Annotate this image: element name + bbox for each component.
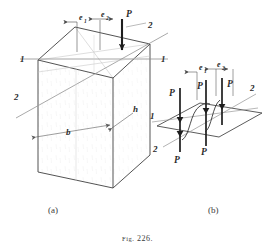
block-front-texture	[38, 60, 113, 188]
panel-b-label-P-bottom-left: P	[174, 155, 180, 165]
panel-b-label-P-top-right: P	[227, 79, 233, 89]
label-axis-1-left: 1	[20, 54, 25, 64]
label-e1: e	[79, 13, 83, 22]
panel-b-caption: (b)	[208, 205, 219, 215]
panel-b-label-e2: e	[217, 60, 221, 69]
panel-b-label-axis-2-upper: 2	[249, 83, 255, 93]
panel-b-label-e1-subscript: 1	[204, 68, 207, 74]
figure-caption-number: 226.	[137, 234, 153, 243]
label-dimension-h: h	[133, 104, 138, 114]
reference-plane	[157, 103, 262, 137]
panel-b-label-e1: e	[199, 63, 203, 72]
label-axis-2-left: 2	[13, 92, 19, 102]
panel-b-label-P-top-mid: P	[197, 81, 203, 91]
panel-b-label-P-top-left: P	[169, 88, 175, 98]
panel-b-label-e2-subscript: 2	[221, 65, 225, 71]
panel-a-caption: (a)	[48, 205, 58, 215]
panel-a-block	[16, 19, 168, 188]
label-e1-subscript: 1	[84, 18, 87, 24]
label-e2-subscript: 2	[105, 15, 109, 21]
figure-drawing-canvas: 1 1 2 2 b h e 1 e 2 P	[0, 0, 275, 249]
leader-to-axis2-label	[126, 23, 146, 27]
figure-caption: Fig. 226.	[0, 234, 275, 243]
figure-caption-prefix: Fig.	[122, 235, 134, 242]
label-e2: e	[101, 10, 105, 19]
panel-b-label-P-bottom-mid: P	[201, 147, 207, 157]
panel-b-label-axis-1: 1	[150, 111, 155, 121]
panel-b-force-system	[152, 69, 262, 152]
panel-b-label-axis-2-lower: 2	[152, 144, 158, 154]
figure-226: 1 1 2 2 b h e 1 e 2 P	[0, 0, 275, 249]
label-dimension-b: b	[66, 127, 71, 137]
label-axis-2-right: 2	[147, 20, 153, 30]
label-load-P: P	[126, 9, 132, 19]
label-axis-1-right: 1	[161, 54, 166, 64]
